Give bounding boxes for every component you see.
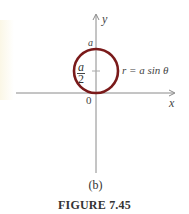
sub-figure-label: (b) — [1, 178, 189, 193]
top-intercept-label: a — [88, 37, 93, 48]
figure-caption: FIGURE 7.45 — [0, 198, 189, 213]
fraction-denominator: 2 — [78, 74, 84, 85]
center-height-fraction: a 2 — [77, 62, 85, 85]
x-axis-label: x — [169, 96, 174, 111]
equation-label: r = a sin θ — [122, 64, 168, 76]
y-axis-label: y — [102, 12, 107, 27]
origin-label: 0 — [86, 94, 92, 106]
